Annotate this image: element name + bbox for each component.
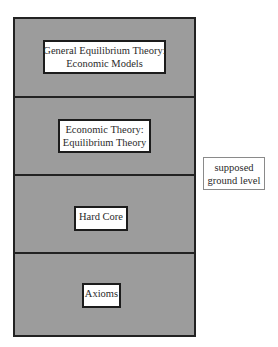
- layer-label-general-equilibrium-theory: General Equilibrium Theory: Economic Mod…: [43, 40, 166, 74]
- layer-label-line: General Equilibrium Theory:: [43, 44, 165, 57]
- layer-label-axioms: Axioms: [82, 283, 121, 308]
- layer-label-line: Equilibrium Theory: [63, 136, 147, 149]
- layer-band-hard-core: Hard Core: [15, 174, 194, 252]
- ground-level-annotation: supposed ground level: [203, 157, 265, 190]
- layer-label-economic-theory: Economic Theory: Equilibrium Theory: [58, 119, 151, 153]
- layer-label-hard-core: Hard Core: [74, 206, 128, 231]
- annotation-line: supposed: [214, 161, 253, 174]
- layer-band-general-equilibrium: General Equilibrium Theory: Economic Mod…: [15, 19, 194, 96]
- layered-stack-diagram: General Equilibrium Theory: Economic Mod…: [13, 17, 196, 337]
- layer-label-line: Economic Models: [66, 57, 143, 70]
- layer-label-line: Hard Core: [79, 210, 123, 223]
- layer-label-line: Axioms: [85, 287, 118, 300]
- annotation-line: ground level: [208, 174, 261, 187]
- layer-band-economic-theory: Economic Theory: Equilibrium Theory: [15, 96, 194, 174]
- layer-band-axioms: Axioms: [15, 252, 194, 335]
- layer-label-line: Economic Theory:: [65, 123, 143, 136]
